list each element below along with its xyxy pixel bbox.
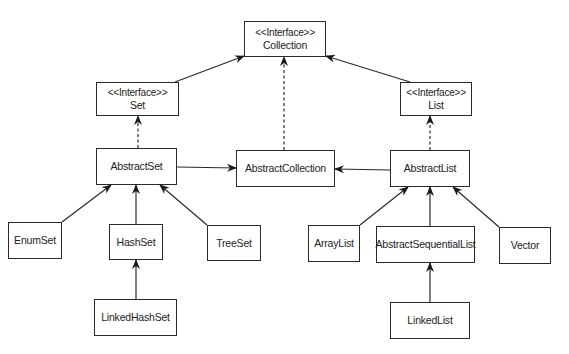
node-collection-interface: <<Interface>> Collection — [244, 21, 326, 57]
node-vector: Vector — [499, 227, 551, 264]
class-name: LinkedList — [407, 314, 452, 327]
class-name: Collection — [263, 39, 307, 52]
edge-arraylist-to-abstractlist — [360, 187, 408, 225]
node-abstract-list: AbstractList — [390, 150, 470, 187]
node-list-interface: <<Interface>> List — [400, 82, 472, 116]
stereotype-label: <<Interface>> — [255, 26, 315, 39]
class-name: EnumSet — [14, 234, 56, 247]
edge-vector-to-abstractlist — [453, 187, 499, 227]
node-hash-set: HashSet — [109, 224, 163, 260]
edge-list-to-collection — [326, 56, 410, 82]
node-tree-set: TreeSet — [207, 225, 261, 261]
node-abstract-sequential-list: AbstractSequentialList — [376, 226, 475, 263]
node-array-list: ArrayList — [308, 225, 360, 262]
class-name: AbstractSet — [110, 160, 162, 173]
class-name: Set — [130, 99, 145, 112]
stereotype-label: <<Interface>> — [406, 86, 466, 99]
class-name: AbstractCollection — [245, 162, 326, 175]
node-set-interface: <<Interface>> Set — [96, 82, 179, 116]
edge-set-to-collection — [175, 56, 244, 82]
class-name: LinkedHashSet — [101, 311, 170, 324]
class-name: AbstractSequentialList — [375, 238, 475, 251]
class-name: List — [428, 99, 444, 112]
edge-abstractlist-to-abstractcollection — [335, 169, 390, 170]
node-enum-set: EnumSet — [8, 222, 62, 259]
node-linked-list: LinkedList — [390, 302, 470, 339]
edge-enumset-to-abstractset — [62, 185, 111, 222]
class-name: HashSet — [117, 236, 156, 249]
class-name: TreeSet — [216, 237, 252, 250]
node-linked-hash-set: LinkedHashSet — [94, 299, 177, 336]
stereotype-label: <<Interface>> — [108, 86, 168, 99]
class-name: AbstractList — [404, 162, 456, 175]
node-abstract-set: AbstractSet — [96, 148, 177, 185]
edge-treeset-to-abstractset — [160, 185, 207, 225]
class-name: ArrayList — [314, 237, 354, 250]
node-abstract-collection: AbstractCollection — [236, 150, 335, 187]
edge-abstractset-to-abstractcollection — [177, 167, 236, 168]
class-name: Vector — [511, 239, 540, 252]
